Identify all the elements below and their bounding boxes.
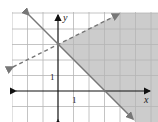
x-axis-label: x <box>143 94 149 105</box>
graph: y x 1 1 <box>0 0 158 122</box>
y-axis-label: y <box>62 12 68 23</box>
y-tick-label-1: 1 <box>50 72 55 82</box>
x-tick-label-1: 1 <box>72 95 77 105</box>
